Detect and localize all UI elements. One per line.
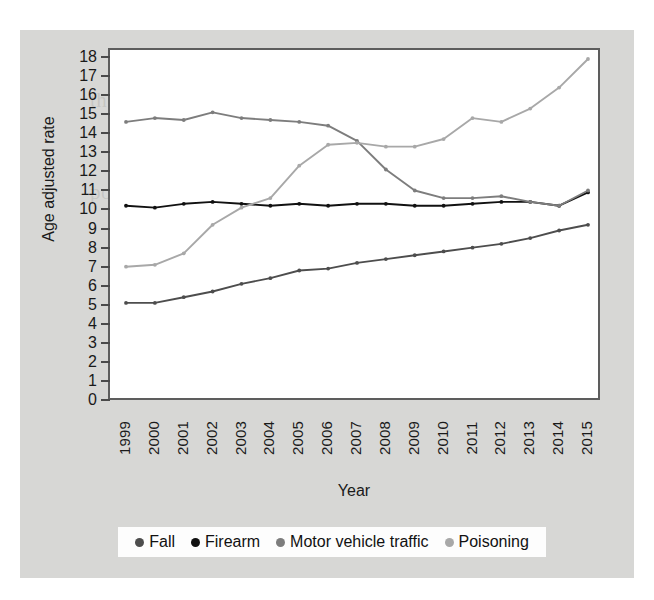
legend-item-label: Motor vehicle traffic	[290, 533, 428, 551]
data-point	[355, 202, 359, 206]
series-poisoning	[124, 57, 590, 269]
data-point	[297, 120, 301, 124]
x-axis-tick-label: 2005	[289, 421, 306, 455]
data-point	[384, 168, 388, 172]
series-line	[126, 59, 588, 267]
data-point	[326, 204, 330, 208]
y-axis-tick-mark	[101, 151, 110, 153]
data-point	[268, 204, 272, 208]
data-point	[499, 120, 503, 124]
x-axis-tick-label: 2011	[462, 421, 479, 454]
y-axis-tick-mark	[101, 380, 110, 382]
data-point	[442, 204, 446, 208]
data-point	[471, 246, 475, 250]
y-axis-tick-label: 10	[79, 201, 101, 217]
legend-item-label: Poisoning	[459, 533, 529, 551]
y-axis-tick: 4	[58, 316, 110, 332]
x-axis-title: Year	[108, 482, 600, 500]
y-axis-tick-mark	[101, 132, 110, 134]
y-axis-tick-mark	[101, 247, 110, 249]
y-axis-tick-mark	[101, 399, 110, 401]
data-point	[124, 265, 128, 269]
x-axis-tick: 2001	[172, 402, 192, 476]
legend-item-fall[interactable]: Fall	[135, 533, 175, 551]
legend-item-firearm[interactable]: Firearm	[191, 533, 260, 551]
y-axis-tick: 5	[58, 297, 110, 313]
data-point	[499, 242, 503, 246]
y-axis-tick-label: 18	[79, 49, 101, 65]
x-axis-tick: 2000	[143, 402, 163, 476]
data-point	[124, 204, 128, 208]
data-point	[586, 189, 590, 193]
y-axis-tick: 7	[58, 259, 110, 275]
data-point	[471, 196, 475, 200]
y-axis-tick-mark	[101, 94, 110, 96]
data-point	[153, 116, 157, 120]
data-point	[268, 276, 272, 280]
y-axis-tick-mark	[101, 361, 110, 363]
x-axis-tick: 2010	[432, 402, 452, 476]
y-axis-tick-label: 4	[88, 316, 101, 332]
x-axis-tick: 2015	[576, 402, 596, 476]
data-point	[355, 141, 359, 145]
legend-item-poisoning[interactable]: Poisoning	[445, 533, 529, 551]
plot-area	[108, 48, 600, 400]
data-point	[297, 202, 301, 206]
data-point	[528, 107, 532, 111]
data-point	[413, 145, 417, 149]
y-axis-tick-label: 14	[79, 125, 101, 141]
y-axis-tick-label: 6	[88, 278, 101, 294]
data-point	[413, 253, 417, 257]
x-axis-tick-label: 2013	[520, 421, 537, 455]
data-point	[413, 204, 417, 208]
data-point	[182, 202, 186, 206]
x-axis-tick-label: 1999	[116, 421, 133, 455]
legend-item-motor-vehicle-traffic[interactable]: Motor vehicle traffic	[276, 533, 428, 551]
data-point	[211, 200, 215, 204]
y-axis-tick-mark	[101, 170, 110, 172]
data-point	[124, 120, 128, 124]
y-axis-tick-label: 8	[88, 240, 101, 256]
y-axis-tick-mark	[101, 342, 110, 344]
x-axis-tick-label: 2003	[231, 421, 248, 455]
y-axis-tick-label: 13	[79, 144, 101, 160]
y-axis-tick-label: 5	[88, 297, 101, 313]
y-axis-tick-label: 1	[88, 373, 101, 389]
data-point	[557, 86, 561, 90]
x-axis: 1999200020012002200320042005200620072008…	[108, 402, 600, 480]
data-point	[240, 206, 244, 210]
data-point	[499, 194, 503, 198]
data-point	[413, 189, 417, 193]
x-axis-tick-label: 2000	[144, 421, 161, 455]
y-axis-tick: 12	[58, 163, 110, 179]
y-axis-tick: 9	[58, 221, 110, 237]
data-point	[153, 301, 157, 305]
data-point	[124, 301, 128, 305]
series-line	[126, 112, 588, 205]
y-axis-tick-label: 0	[88, 392, 101, 408]
y-axis-tick: 3	[58, 335, 110, 351]
data-point	[153, 206, 157, 210]
data-point	[326, 143, 330, 147]
x-axis-tick-label: 2004	[260, 421, 277, 455]
data-point	[153, 263, 157, 267]
y-axis-title: Age adjusted rate	[40, 64, 58, 294]
x-axis-tick-label: 2009	[404, 421, 421, 455]
data-point	[268, 196, 272, 200]
data-point	[182, 251, 186, 255]
y-axis-tick-label: 17	[79, 68, 101, 84]
data-point	[326, 267, 330, 271]
data-point	[355, 261, 359, 265]
x-axis-tick-label: 2012	[491, 421, 508, 455]
data-point	[557, 229, 561, 233]
data-point	[384, 202, 388, 206]
data-point	[182, 118, 186, 122]
data-point	[499, 200, 503, 204]
x-axis-tick: 2005	[287, 402, 307, 476]
y-axis-tick: 0	[58, 392, 110, 408]
y-axis-tick: 14	[58, 125, 110, 141]
data-point	[182, 295, 186, 299]
x-axis-tick: 2008	[374, 402, 394, 476]
data-point	[442, 137, 446, 141]
y-axis-tick-mark	[101, 266, 110, 268]
